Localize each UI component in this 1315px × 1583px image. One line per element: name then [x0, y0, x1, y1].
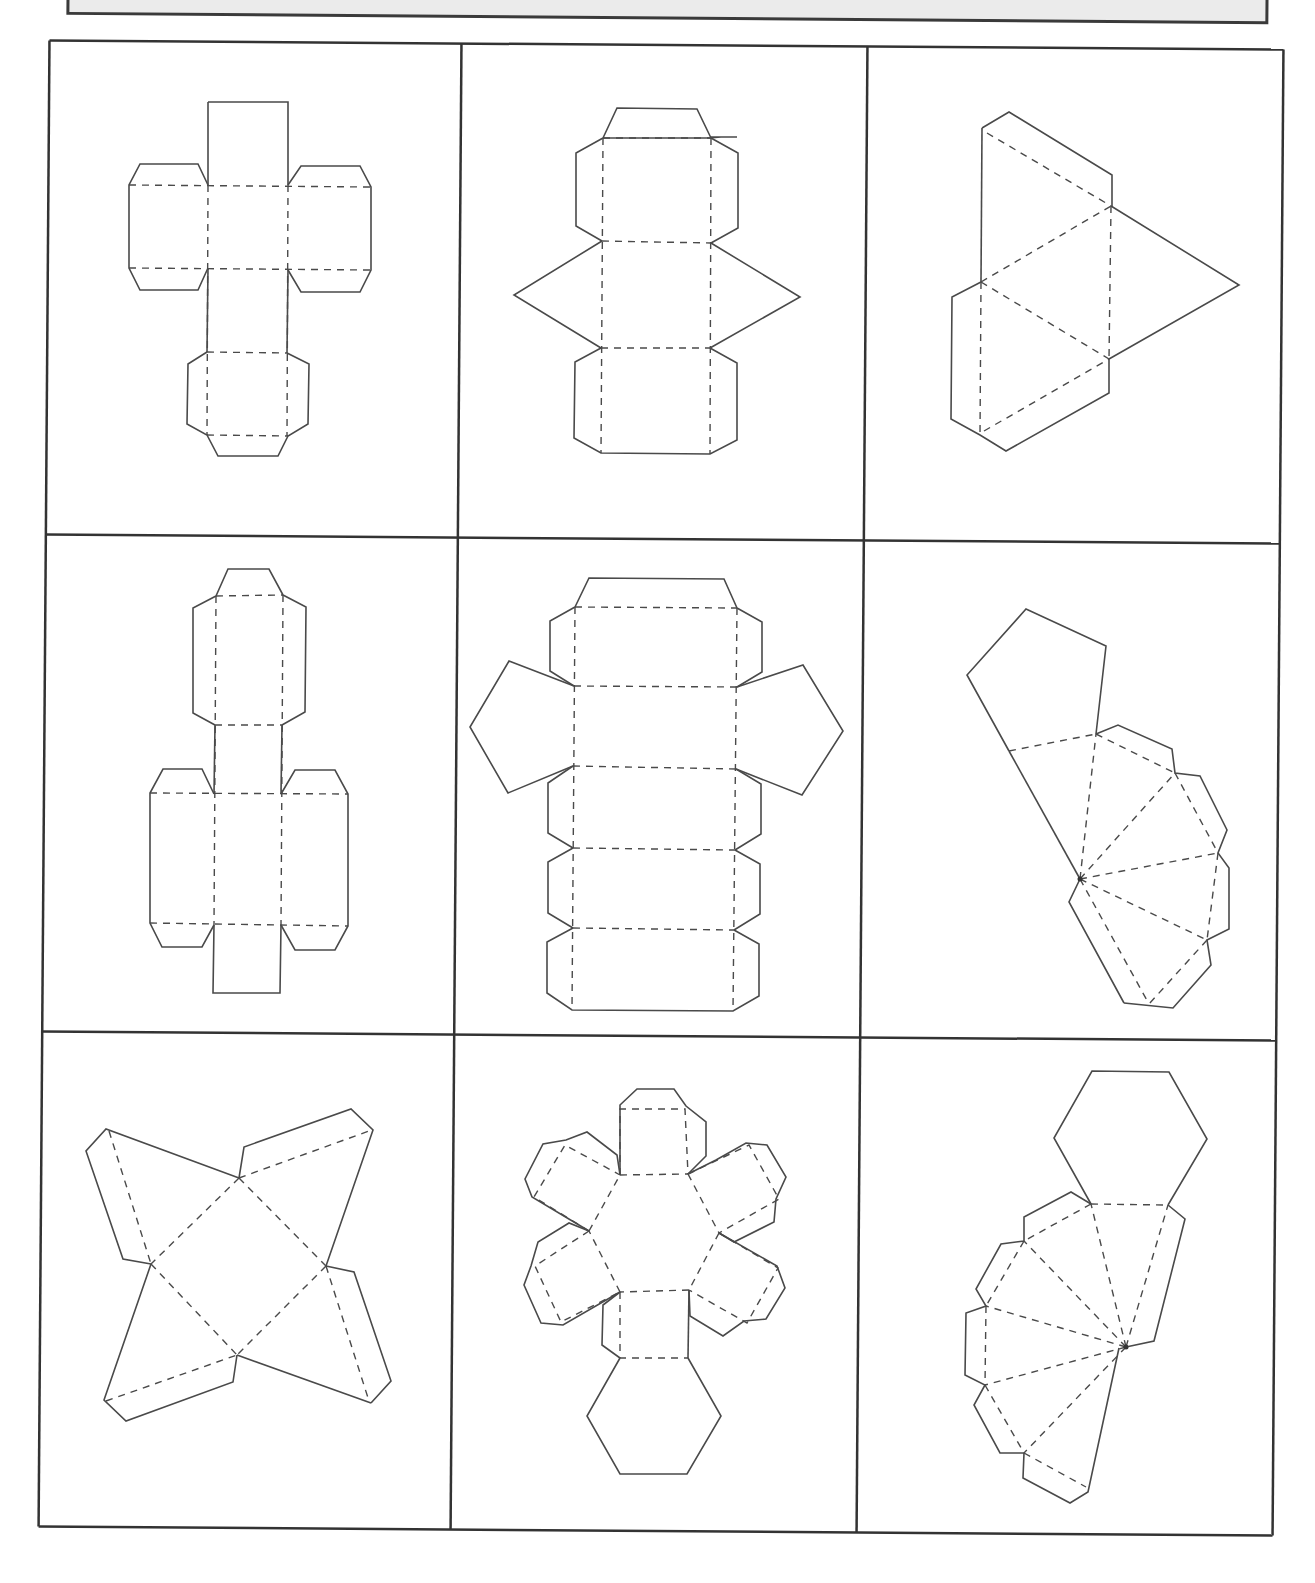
grid-horizontal-line-2 — [42, 1031, 1276, 1040]
fold-line — [1024, 1241, 1126, 1347]
cut-line — [710, 243, 800, 348]
cut-line — [602, 1292, 620, 1358]
fold-line — [981, 206, 1111, 282]
cut-line — [104, 1264, 237, 1421]
fold-line — [984, 359, 1109, 431]
cut-line — [689, 1233, 785, 1336]
fold-line — [1091, 1204, 1168, 1205]
cut-line — [736, 665, 843, 795]
fold-line — [710, 138, 711, 454]
cut-line — [576, 138, 603, 241]
fold-line — [620, 1290, 689, 1292]
fold-line — [589, 1175, 620, 1231]
cut-line — [524, 1223, 620, 1325]
cut-line — [548, 766, 573, 848]
fold-line — [689, 1233, 719, 1290]
fold-line — [109, 1131, 151, 1264]
cut-line — [216, 569, 283, 596]
cut-line — [525, 1132, 620, 1231]
cut-line — [150, 769, 214, 947]
fold-line — [688, 1174, 719, 1233]
fold-line — [986, 1241, 1024, 1306]
cut-line — [281, 770, 348, 950]
cut-line — [951, 282, 1109, 451]
cut-line — [1054, 1071, 1207, 1205]
cube-net: Cube net — [129, 102, 371, 456]
fold-line — [688, 1145, 779, 1233]
cut-line — [1009, 751, 1080, 879]
fold-line — [1091, 1204, 1126, 1347]
fold-line — [129, 185, 371, 187]
fold-line — [534, 1145, 620, 1231]
fold-line — [326, 1266, 369, 1401]
fold-line — [981, 282, 1109, 359]
cut-line — [288, 166, 371, 292]
cut-line — [737, 608, 762, 687]
fold-line — [1024, 1347, 1126, 1453]
fold-line — [106, 1355, 237, 1401]
cut-line — [734, 850, 760, 930]
pentagonal-prism-net: Pentagonal prism net — [470, 578, 843, 1011]
fold-line — [207, 352, 287, 353]
square-pyramid-net: Square pyramid net — [86, 1109, 391, 1421]
cut-line — [86, 1129, 239, 1264]
fold-line — [239, 1131, 369, 1178]
fold-line — [985, 1385, 1024, 1453]
fold-line — [572, 607, 575, 1010]
grid-horizontal-line-1 — [46, 534, 1280, 543]
fold-line — [620, 1174, 688, 1175]
cut-line — [239, 1109, 373, 1266]
fold-line — [980, 282, 981, 435]
cut-line — [282, 595, 306, 725]
fold-line — [985, 1306, 986, 1385]
header-box-frame — [68, 0, 1267, 23]
cut-line — [548, 848, 573, 928]
cut-line — [1096, 725, 1229, 1008]
fold-line — [1126, 1205, 1168, 1347]
cut-line — [587, 1358, 721, 1474]
cut-line — [574, 348, 737, 454]
fold-line — [1080, 879, 1207, 940]
triangular-prism-net: Triangular prism net — [514, 108, 800, 454]
fold-line — [589, 1231, 620, 1292]
fold-line — [535, 1231, 620, 1322]
cut-line — [208, 102, 288, 185]
fold-line — [602, 241, 711, 243]
cut-line — [547, 928, 759, 1011]
fold-line — [620, 1109, 688, 1175]
fold-line — [1109, 206, 1111, 359]
cut-line — [982, 112, 1112, 207]
fold-line — [1096, 734, 1175, 773]
fold-line — [1207, 853, 1218, 940]
rectangular-prism-net: Rectangular prism (cuboid) net — [150, 569, 348, 993]
fold-line — [129, 268, 371, 270]
cut-line — [237, 1355, 371, 1403]
grid-horizontal-line-0 — [49, 41, 1283, 50]
cut-line — [187, 352, 309, 456]
fold-line — [207, 435, 288, 436]
fold-line — [239, 1178, 326, 1266]
cut-line — [514, 241, 602, 348]
fold-line — [601, 138, 603, 453]
fold-line — [1149, 940, 1207, 1004]
nets-grid — [39, 41, 1284, 1536]
grid-vertical-line-2 — [857, 47, 868, 1533]
cut-line — [688, 1290, 689, 1358]
cut-line — [470, 661, 574, 793]
fold-line — [151, 1264, 237, 1355]
cut-line — [711, 138, 738, 243]
fold-line — [1024, 1204, 1091, 1241]
fold-line — [574, 686, 737, 687]
cut-line — [1126, 1205, 1185, 1347]
fold-line — [986, 1306, 1126, 1347]
cut-line — [603, 108, 711, 138]
cut-line — [129, 164, 208, 290]
cut-line — [326, 1266, 391, 1403]
hexagonal-prism-net: Hexagonal prism net — [524, 1089, 786, 1474]
cut-line — [620, 1089, 706, 1175]
fold-line — [575, 607, 737, 608]
apex-point — [1124, 1345, 1129, 1350]
cut-line — [735, 769, 761, 850]
apex-point — [1078, 877, 1083, 882]
fold-line — [1175, 773, 1218, 853]
